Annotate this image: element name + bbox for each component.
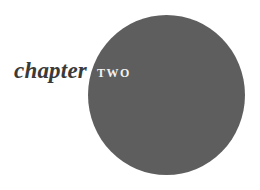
chapter-label: chapter [14,58,87,84]
decorative-circle [88,15,245,175]
chapter-number: TWO [97,66,131,81]
